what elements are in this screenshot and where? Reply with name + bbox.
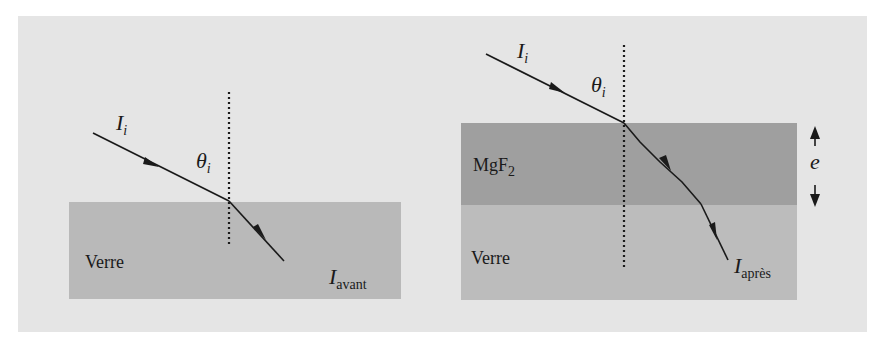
transmitted-intensity-label-right: Iaprès	[734, 255, 771, 281]
mgf2-layer-label: MgF2	[473, 156, 515, 179]
arrow-head-icon	[143, 157, 159, 167]
incident-intensity-label-right: Ii	[517, 40, 528, 66]
label-subscript: après	[741, 266, 771, 281]
diagram-graphics	[0, 0, 887, 348]
incident-intensity-label-left: Ii	[116, 112, 127, 138]
incidence-angle-label-left: θi	[196, 150, 211, 176]
label-subscript: i	[602, 85, 606, 100]
glass-label-right: Verre	[471, 249, 510, 267]
glass-label-left: Verre	[85, 253, 124, 271]
arrow-up-icon	[810, 126, 820, 139]
label-subscript: i	[123, 123, 127, 138]
thickness-label: e	[810, 151, 820, 173]
label-subscript: i	[207, 161, 211, 176]
label-subscript: 2	[508, 164, 515, 179]
glass-block-right	[461, 205, 797, 300]
arrow-head-icon	[549, 82, 565, 93]
incidence-angle-label-right: θi	[591, 74, 606, 100]
label-subscript: i	[524, 51, 528, 66]
label-symbol: θ	[196, 148, 207, 173]
transmitted-intensity-label-left: Iavant	[329, 266, 367, 292]
arrow-down-icon	[810, 194, 820, 207]
label-subscript: avant	[336, 277, 366, 292]
label-symbol: θ	[591, 72, 602, 97]
label-text: MgF	[473, 155, 508, 175]
